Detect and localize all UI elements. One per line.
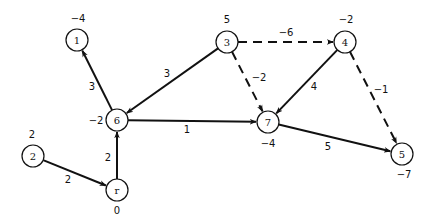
node-6: 6 [106,109,128,131]
edge-4-to-5 [350,52,397,144]
node-potential-label: −2 [339,14,354,25]
node-potential-label: 0 [114,205,120,216]
node-label: 4 [342,37,348,48]
edge-weight-label: 2 [105,152,111,163]
edges-layer [43,42,396,185]
edge-2-to-r [43,160,106,185]
node-2: 2 [22,145,44,167]
node-potential-label: −4 [261,138,276,149]
node-potential-label: 5 [224,14,230,25]
node-potential-label: −7 [397,169,412,180]
edge-weight-label: 1 [184,124,190,135]
node-5: 5 [391,143,413,165]
node-label: 7 [265,117,271,128]
edge-weight-label: 4 [311,81,317,92]
edge-weight-label: −2 [252,72,267,83]
node-4: 4 [334,31,356,53]
edge-weight-label: −1 [374,84,389,95]
node-potential-label: −4 [71,13,86,24]
node-3: 3 [216,31,238,53]
node-label: 3 [224,37,230,48]
edge-weight-label: −6 [279,27,294,38]
edge-weight-label: 3 [164,68,170,79]
node-label: r [115,185,120,196]
node-label: 1 [74,35,80,46]
edge-3-to-6 [127,48,218,113]
node-label: 5 [399,149,405,160]
graph-diagram: 1346752r 33−6−24−11522−45−2−2−4−720 [0,0,432,224]
node-1: 1 [66,29,88,51]
node-label: 6 [114,115,120,126]
node-7: 7 [257,111,279,133]
edge-weight-label: 2 [65,174,71,185]
edge-6-to-7 [128,120,256,122]
edge-weight-label: 3 [89,81,95,92]
node-label: 2 [30,151,36,162]
node-r: r [106,179,128,201]
node-potential-label: 2 [29,129,35,140]
edge-6-to-1 [82,51,112,110]
node-potential-label: −2 [89,115,104,126]
edge-4-to-7 [276,50,337,113]
edge-7-to-5 [279,125,391,152]
edge-weight-label: 5 [325,141,331,152]
